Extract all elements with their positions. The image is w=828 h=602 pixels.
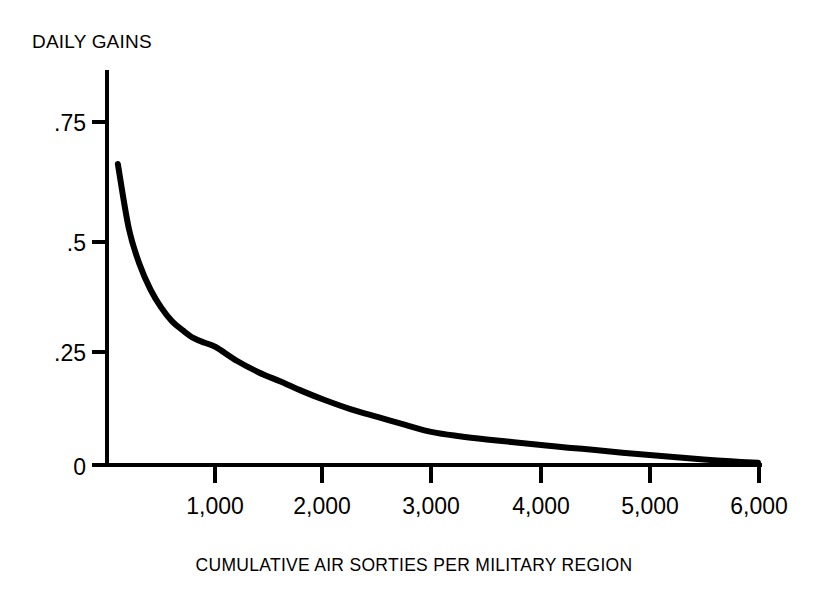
x-tick-label-2000: 2,000 [293, 493, 351, 519]
x-tick-label-3000: 3,000 [402, 493, 460, 519]
x-tick-label-5000: 5,000 [621, 493, 679, 519]
y-axis-ticks [92, 122, 107, 465]
x-tick-label-4000: 4,000 [512, 493, 570, 519]
y-tick-label-05: .5 [67, 230, 86, 256]
x-tick-label-6000: 6,000 [730, 493, 788, 519]
y-tick-label-0: 0 [73, 454, 86, 480]
y-tick-label-025: .25 [54, 340, 86, 366]
y-tick-label-075: .75 [54, 110, 86, 136]
data-series-line [118, 164, 758, 463]
x-axis-caption: CUMULATIVE AIR SORTIES PER MILITARY REGI… [196, 555, 633, 575]
chart-title: DAILY GAINS [32, 31, 152, 52]
daily-gains-line-chart: DAILY GAINS .75 .5 .25 0 1,000 2,000 3,0… [0, 0, 828, 602]
x-axis-ticks [215, 465, 759, 483]
chart-figure: DAILY GAINS .75 .5 .25 0 1,000 2,000 3,0… [0, 0, 828, 602]
x-tick-label-1000: 1,000 [186, 493, 244, 519]
